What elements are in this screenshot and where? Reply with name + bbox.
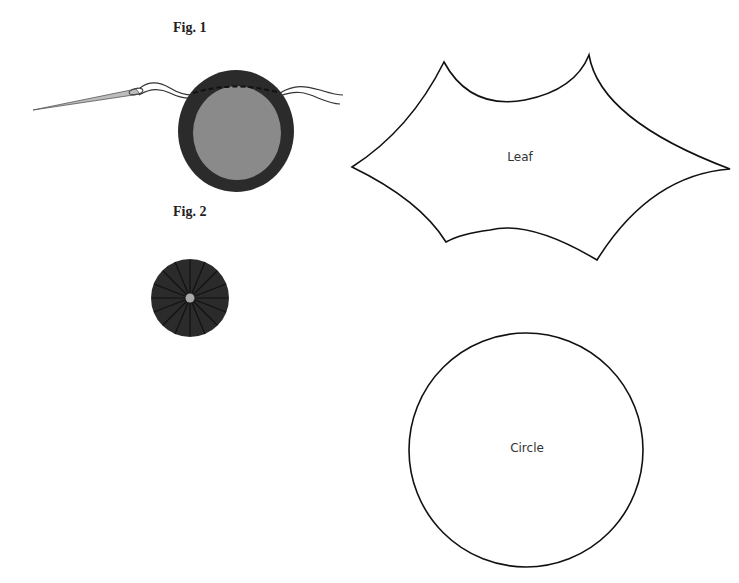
fabric-circle-inner: [193, 86, 281, 180]
fig2-label: Fig. 2: [173, 204, 206, 220]
needle-icon: [33, 87, 143, 110]
circle-label: Circle: [510, 441, 544, 455]
thread-left: [140, 83, 193, 95]
leaf-label: Leaf: [507, 150, 532, 164]
pattern-canvas: [0, 0, 739, 583]
leaf-template: [352, 55, 730, 260]
fig1-label: Fig. 1: [173, 20, 206, 36]
yoyo-icon: [151, 259, 229, 337]
